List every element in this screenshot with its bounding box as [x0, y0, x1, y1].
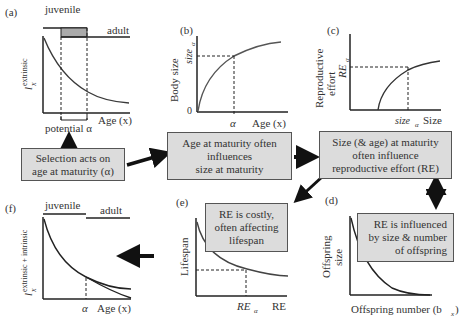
- panel-d-label: (d): [325, 194, 338, 207]
- arrow-selection-to-age: [127, 154, 165, 165]
- panel-f: (f) juvenile adult α Age (x) l extrinsic…: [5, 199, 131, 315]
- panel-f-xlabel: Age (x): [97, 302, 131, 315]
- svg-text:adult: adult: [100, 204, 122, 216]
- panel-c: (c) size α Size RE α Reproductive effort: [313, 24, 442, 129]
- panel-f-label: (f): [5, 202, 16, 215]
- svg-text:α: α: [82, 302, 88, 314]
- svg-text:x: x: [29, 288, 38, 293]
- panel-a-ylabel-sup: extrinsic: [20, 58, 29, 86]
- panel-e-xlabel: RE: [272, 300, 286, 312]
- panel-d-xlabel: Offspring number (b: [351, 303, 442, 316]
- panel-f-ylabel: extrinsic + intrinsic: [20, 229, 29, 292]
- panel-a-label: (a): [5, 6, 18, 19]
- svg-text:effort: effort: [325, 72, 337, 96]
- panel-a-juvenile-label: juvenile: [44, 3, 81, 15]
- panel-a-adult-label: adult: [107, 24, 129, 36]
- svg-text:Offspring: Offspring: [320, 235, 332, 278]
- panel-e-ylabel: Lifespan: [178, 237, 190, 276]
- panel-b-alpha-marker: α: [230, 117, 236, 129]
- svg-text:α: α: [415, 121, 419, 129]
- svg-text:0: 0: [187, 105, 192, 116]
- box-selection-acts: Selection acts on age at maturity (α): [21, 148, 125, 181]
- svg-text:α: α: [254, 307, 258, 315]
- panel-c-label: (c): [327, 24, 340, 37]
- svg-text:α: α: [343, 58, 351, 62]
- potential-alpha-shade: [61, 28, 87, 37]
- panel-c-effort-curve: [378, 61, 440, 110]
- panel-c-xlabel: Size: [423, 114, 442, 126]
- panel-e-label: (e): [176, 196, 189, 209]
- svg-text:x: x: [29, 82, 38, 87]
- box-re-offspring: RE is influenced by size & number of off…: [357, 213, 454, 262]
- arrow-size-to-costly: [298, 177, 322, 199]
- svg-text:size: size: [395, 115, 411, 126]
- panel-a-ylabel: l: [22, 87, 34, 90]
- svg-text:): ): [455, 303, 459, 316]
- panel-a: (a) juvenile adult potential α Age (x) l…: [5, 3, 132, 150]
- svg-text:α: α: [189, 42, 197, 46]
- panel-a-xlabel: Age (x): [98, 114, 132, 127]
- svg-text:size: size: [183, 48, 194, 64]
- box-age-influences-size: Age at maturity often influences size at…: [167, 132, 292, 180]
- svg-text:l: l: [22, 293, 34, 296]
- panel-b: (b) 0 α Age (x) size α Body size: [168, 24, 288, 130]
- panel-b-ylabel: Body size: [168, 58, 180, 102]
- panel-f-intrinsic-curve: [86, 277, 131, 298]
- svg-text:size: size: [332, 249, 344, 266]
- box-re-costly: RE is costly, often affecting lifespan: [205, 203, 288, 252]
- svg-text:RE: RE: [236, 300, 251, 312]
- panel-b-growth-curve: [198, 42, 281, 111]
- panel-b-label: (b): [180, 24, 193, 37]
- panel-b-xlabel: Age (x): [252, 117, 286, 130]
- panel-a-potential-alpha: potential α: [45, 122, 92, 134]
- svg-text:juvenile: juvenile: [44, 199, 81, 211]
- box-size-influences-re: Size (& age) at maturity often influence…: [319, 131, 452, 179]
- svg-text:Reproductive: Reproductive: [313, 49, 325, 108]
- svg-text:RE: RE: [336, 64, 348, 79]
